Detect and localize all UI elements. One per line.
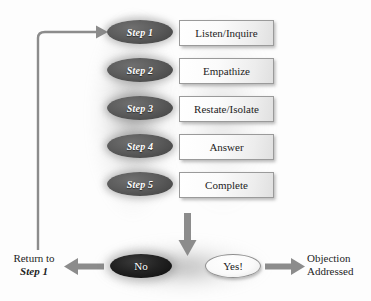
return-path-line [38, 32, 96, 250]
no-arrow-shaft [78, 264, 104, 270]
decision-yes[interactable]: Yes! [205, 254, 261, 278]
flow-diagram: Step 1 Listen/Inquire Step 2 Empathize S… [0, 0, 371, 301]
step-action-box-4[interactable]: Answer [179, 134, 274, 160]
step-marker-4[interactable]: Step 4 [107, 134, 173, 158]
outcome-addressed-line1: Objection [307, 252, 369, 265]
decision-no-label: No [134, 260, 147, 272]
step-action-box-1[interactable]: Listen/Inquire [179, 20, 274, 46]
step-marker-label-2: Step 2 [127, 65, 153, 76]
step-action-label-2: Empathize [203, 65, 250, 77]
yes-arrow-shaft [265, 264, 291, 270]
step-action-box-3[interactable]: Restate/Isolate [179, 96, 274, 122]
step-marker-2[interactable]: Step 2 [107, 58, 173, 82]
step-action-box-2[interactable]: Empathize [179, 58, 274, 84]
decision-yes-label: Yes! [223, 260, 243, 272]
step-action-label-4: Answer [209, 141, 243, 153]
step-marker-label-4: Step 4 [127, 141, 153, 152]
step-action-label-3: Restate/Isolate [194, 103, 259, 115]
step-marker-label-3: Step 3 [127, 103, 153, 114]
outcome-addressed-line2: Addressed [307, 265, 369, 278]
outcome-return-line1: Return to [6, 252, 62, 265]
no-arrow-head [64, 258, 78, 275]
step-marker-1[interactable]: Step 1 [107, 20, 173, 44]
step-marker-label-5: Step 5 [127, 179, 153, 190]
decision-no[interactable]: No [110, 254, 172, 278]
yes-arrow-head [291, 258, 305, 275]
step-marker-label-1: Step 1 [127, 27, 153, 38]
step-marker-5[interactable]: Step 5 [107, 172, 173, 196]
step-marker-3[interactable]: Step 3 [107, 96, 173, 120]
down-arrow-head [179, 240, 197, 256]
down-arrow-shaft [184, 213, 191, 243]
outcome-addressed: Objection Addressed [307, 252, 369, 278]
outcome-return: Return to Step 1 [6, 252, 62, 278]
step-action-label-1: Listen/Inquire [195, 27, 257, 39]
step-action-label-5: Complete [205, 179, 248, 191]
outcome-return-line2: Step 1 [6, 265, 62, 278]
step-action-box-5[interactable]: Complete [179, 172, 274, 198]
